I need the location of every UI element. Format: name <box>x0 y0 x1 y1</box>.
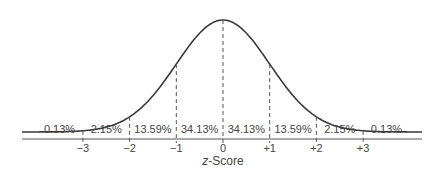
region-percent: 34.13% <box>181 123 219 135</box>
region-percent: 2.15% <box>324 123 355 135</box>
x-tick-label: 0 <box>220 142 226 154</box>
x-tick-label: −2 <box>123 142 136 154</box>
x-tick-labels: −3−2−10+1+2+3 <box>77 142 370 154</box>
x-tick-label: +3 <box>357 142 370 154</box>
x-tick-label: +2 <box>310 142 323 154</box>
bell-curve <box>22 20 422 132</box>
region-percent: 34.13% <box>228 123 266 135</box>
x-axis-label: z-Score <box>201 154 244 168</box>
sd-dashed-lines <box>83 20 363 143</box>
region-percent: 0.13% <box>371 123 402 135</box>
region-percent: 13.59% <box>134 123 172 135</box>
x-tick-label: −1 <box>170 142 183 154</box>
x-tick-label: −3 <box>77 142 90 154</box>
region-percent: 0.13% <box>44 123 75 135</box>
x-tick-label: +1 <box>263 142 276 154</box>
normal-distribution-chart: 0.13%2.15%13.59%34.13%34.13%13.59%2.15%0… <box>0 0 443 174</box>
region-percent: 2.15% <box>91 123 122 135</box>
region-percent: 13.59% <box>274 123 312 135</box>
